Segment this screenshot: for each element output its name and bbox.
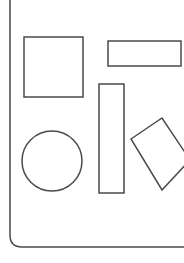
- shapes-diagram: [0, 0, 184, 263]
- circle-shape: [22, 131, 82, 191]
- horizontal-rectangle-shape: [108, 41, 181, 66]
- vertical-rectangle-shape: [99, 84, 124, 193]
- rotated-rectangle-shape: [131, 118, 184, 190]
- square-shape: [24, 37, 83, 97]
- diagram-svg: [0, 0, 184, 263]
